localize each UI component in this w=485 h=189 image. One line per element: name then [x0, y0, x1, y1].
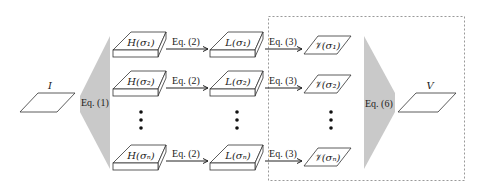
- svg-text:L(σₙ): L(σₙ): [224, 150, 250, 161]
- l-slab-1: L(σ₁): [210, 32, 263, 57]
- row-1: H(σ₁) Eq. (2) L(σ₁) Eq. (3) 𝒱(σ₁): [113, 32, 351, 57]
- svg-text:L(σ₂): L(σ₂): [224, 76, 250, 87]
- ellipsis-dots: [139, 110, 333, 130]
- v-plane-2: 𝒱(σ₂): [304, 75, 351, 93]
- merge-block: Eq. (6): [364, 36, 395, 169]
- svg-text:H(σ₁): H(σ₁): [126, 37, 154, 48]
- l-slab-2: L(σ₂): [210, 71, 263, 96]
- output-plane: V: [398, 80, 456, 112]
- svg-text:H(σₙ): H(σₙ): [126, 150, 155, 161]
- l-slab-n: L(σₙ): [210, 145, 263, 170]
- row-n: H(σₙ) Eq. (2) L(σₙ) Eq. (3) 𝒱(σₙ): [113, 145, 351, 170]
- input-label: I: [47, 80, 53, 91]
- input-image-plane: I: [20, 80, 75, 112]
- split-label: Eq. (1): [81, 97, 109, 109]
- h-slab-2: H(σ₂): [113, 71, 166, 96]
- eq3-label-n: Eq. (3): [269, 148, 297, 160]
- eq2-label-n: Eq. (2): [172, 148, 200, 160]
- eq2-label-1: Eq. (2): [172, 36, 200, 48]
- eq2-label-2: Eq. (2): [172, 75, 200, 87]
- svg-text:L(σ₁): L(σ₁): [224, 37, 250, 48]
- v-plane-n: 𝒱(σₙ): [304, 148, 351, 166]
- h-slab-n: H(σₙ): [113, 145, 166, 170]
- eq3-label-2: Eq. (3): [269, 75, 297, 87]
- eq3-label-1: Eq. (3): [269, 36, 297, 48]
- svg-text:𝒱(σ₁): 𝒱(σ₁): [314, 40, 341, 51]
- output-label: V: [426, 80, 435, 91]
- merge-label: Eq. (6): [365, 98, 393, 110]
- v-plane-1: 𝒱(σ₁): [304, 36, 351, 54]
- pipeline-diagram: I Eq. (1) H(σ₁) Eq. (2) L(σ₁) Eq. (3) 𝒱(…: [0, 0, 485, 189]
- svg-text:𝒱(σ₂): 𝒱(σ₂): [314, 79, 341, 90]
- svg-text:𝒱(σₙ): 𝒱(σₙ): [314, 152, 341, 163]
- split-block: Eq. (1): [80, 36, 110, 169]
- row-2: H(σ₂) Eq. (2) L(σ₂) Eq. (3) 𝒱(σ₂): [113, 71, 351, 96]
- svg-text:H(σ₂): H(σ₂): [126, 76, 154, 87]
- h-slab-1: H(σ₁): [113, 32, 166, 57]
